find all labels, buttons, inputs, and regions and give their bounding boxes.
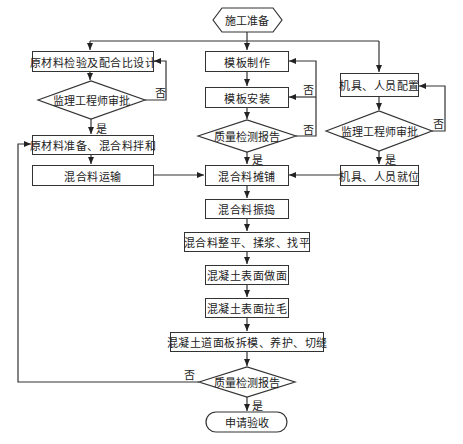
left-yes-label: 是 — [96, 120, 107, 136]
surface-finish-box: 混凝土表面做面 — [205, 265, 289, 285]
quality2-yes-label: 是 — [252, 397, 263, 413]
equipment-staff-config-box: 机具、人员配置 — [340, 73, 419, 97]
demold-cure-cut-box: 混凝土道面板拆模、养护、切缝 — [170, 332, 324, 352]
mix-paving-box: 混合料摊铺 — [205, 165, 289, 186]
form-install-no-label: 否 — [303, 81, 314, 97]
equipment-staff-ready-box: 机具、人员就位 — [340, 165, 419, 186]
quality1-no-label: 否 — [303, 121, 314, 137]
left-no-label: 否 — [155, 84, 166, 100]
quality-report-2-label: 质量检测报告 — [214, 374, 280, 390]
quality1-yes-label: 是 — [252, 151, 263, 167]
surface-texture-box: 混凝土表面拉毛 — [205, 298, 289, 318]
mix-transport-box: 混合料运输 — [32, 165, 154, 186]
material-mixing-box: 原材料准备、混合料拌和 — [32, 135, 154, 155]
right-approve-label: 监理工程师审批 — [341, 123, 418, 139]
material-test-design-box: 原材料检验及配合比设计 — [32, 51, 154, 72]
formwork-make-box: 模板制作 — [205, 51, 289, 72]
right-yes-label: 是 — [385, 151, 396, 167]
left-approve-label: 监理工程师审批 — [53, 92, 130, 108]
formwork-install-box: 模板安装 — [205, 87, 289, 108]
quality-report-1-label: 质量检测报告 — [214, 128, 280, 144]
right-no-label: 否 — [433, 115, 444, 131]
apply-acceptance-label: 申请验收 — [225, 414, 269, 430]
quality2-no-label: 否 — [184, 366, 195, 382]
start-label: 施工准备 — [225, 12, 269, 28]
mix-vibrating-box: 混合料振捣 — [205, 199, 289, 219]
mix-leveling-box: 混合料整平、揉浆、找平 — [184, 232, 310, 252]
